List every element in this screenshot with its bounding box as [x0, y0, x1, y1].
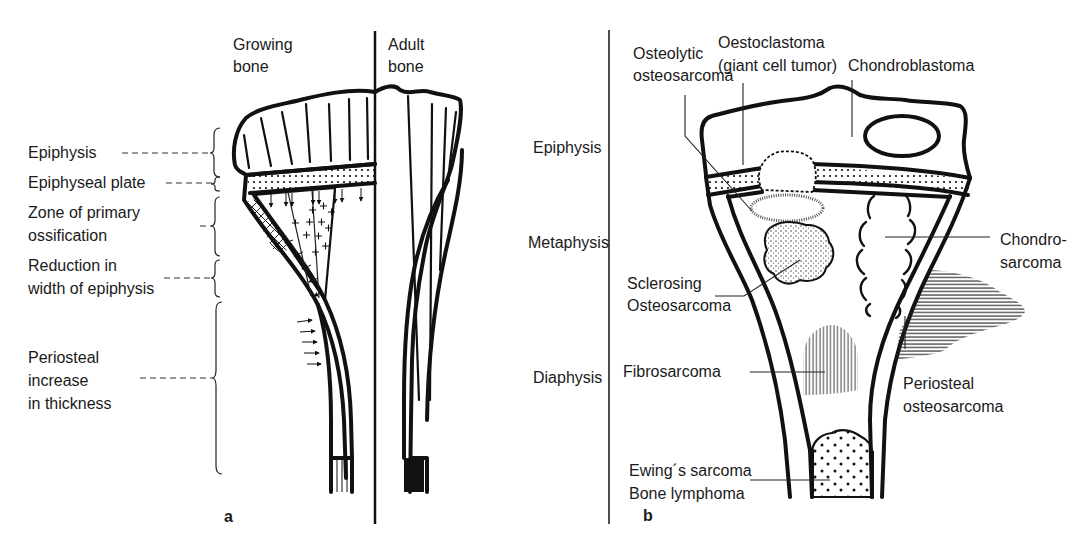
osteoclastoma-lesion: [759, 151, 816, 192]
zone-labels: Epiphysis Epiphyseal plate Zone of prima…: [27, 128, 222, 474]
chondroblastoma-lesion: [865, 116, 939, 156]
osteolytic-osteosarcoma-lesion: [751, 195, 823, 221]
region-label-metaphysis: Metaphysis: [528, 234, 609, 251]
label-osteoclastoma-line2: (giant cell tumor): [718, 57, 837, 74]
zone-label-periosteal-line3: in thickness: [28, 395, 112, 412]
zone-label-periosteal-line2: increase: [28, 372, 89, 389]
chondrosarcoma-lesion: [857, 196, 915, 318]
ewing-lymphoma-lesion: [812, 430, 872, 497]
label-fibrosarcoma: Fibrosarcoma: [623, 363, 721, 380]
label-sclerosing-osteosarcoma: Sclerosing: [627, 275, 702, 292]
panel-a-label: a: [224, 508, 233, 525]
label-sclerosing-osteosarcoma-line2: Osteosarcoma: [627, 297, 731, 314]
zone-label-periosteal: Periosteal: [28, 349, 99, 366]
zone-label-primary-ossification-line2: ossification: [28, 227, 107, 244]
region-label-epiphysis: Epiphysis: [533, 139, 601, 156]
sclerosing-osteosarcoma-lesion: [764, 222, 833, 284]
bone-tumor-diagram: Growing bone Adult bone: [0, 0, 1090, 548]
zone-label-epiphysis: Epiphysis: [28, 144, 96, 161]
panel-a: Growing bone Adult bone: [27, 31, 462, 525]
growing-bone-header: Growing: [233, 36, 293, 53]
label-chondroblastoma: Chondroblastoma: [848, 57, 974, 74]
panel-b-label: b: [643, 507, 653, 524]
label-periosteal-osteosarcoma-line2: osteosarcoma: [903, 398, 1004, 415]
zone-label-reduction-width: Reduction in: [28, 257, 117, 274]
fibrosarcoma-lesion: [803, 325, 858, 395]
adult-bone-header-line2: bone: [388, 58, 424, 75]
adult-bone-header: Adult: [388, 36, 425, 53]
periosteal-osteosarcoma-lesion: [895, 270, 1025, 360]
label-chondrosarcoma-line2: sarcoma: [1000, 254, 1061, 271]
region-label-diaphysis: Diaphysis: [533, 369, 602, 386]
zone-label-primary-ossification: Zone of primary: [28, 204, 140, 221]
label-osteolytic-osteosarcoma: Osteolytic: [633, 45, 703, 62]
adult-bone-drawing: [375, 86, 462, 492]
region-labels: Epiphysis Metaphysis Diaphysis: [528, 139, 609, 386]
label-periosteal-osteosarcoma: Periosteal: [903, 375, 974, 392]
label-osteoclastoma: Oestoclastoma: [718, 34, 825, 51]
label-bone-lymphoma: Bone lymphoma: [629, 485, 745, 502]
zone-label-reduction-width-line2: width of epiphysis: [27, 280, 154, 297]
panel-b: Osteolytic osteosarcoma Oestoclastoma (g…: [623, 34, 1067, 524]
zone-label-epiphyseal-plate: Epiphyseal plate: [28, 174, 146, 191]
growing-bone-drawing: [234, 91, 375, 492]
growing-bone-header-line2: bone: [233, 58, 269, 75]
label-ewing-sarcoma: Ewing´s sarcoma: [629, 462, 752, 479]
label-chondrosarcoma: Chondro-: [1000, 231, 1067, 248]
